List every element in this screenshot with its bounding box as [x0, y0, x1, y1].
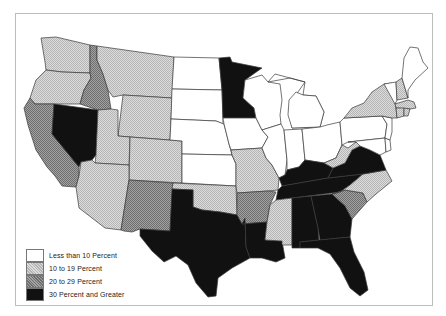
map-legend: Less than 10 Percent 10 to 19 Percent 20… — [26, 249, 124, 301]
legend-item: 30 Percent and Greater — [26, 288, 124, 301]
legend-swatch-black — [26, 288, 44, 301]
legend-label: 30 Percent and Greater — [49, 291, 124, 298]
state-KS — [182, 154, 236, 186]
legend-label: 20 to 29 Percent — [49, 278, 102, 285]
legend-swatch-light-hatch — [26, 262, 44, 275]
state-ME — [402, 47, 428, 98]
legend-item: 20 to 29 Percent — [26, 275, 124, 288]
state-FL — [300, 237, 368, 296]
state-SD — [171, 89, 223, 124]
state-OH — [302, 122, 342, 163]
state-NM — [121, 180, 173, 232]
state-MT — [97, 46, 174, 98]
state-AZ — [76, 160, 129, 230]
legend-label: Less than 10 Percent — [49, 252, 117, 259]
state-MI-lower — [288, 92, 324, 128]
state-CO — [129, 137, 182, 183]
legend-swatch-white — [26, 249, 44, 262]
state-RI — [404, 108, 410, 116]
legend-item: 10 to 19 Percent — [26, 262, 124, 275]
legend-item: Less than 10 Percent — [26, 249, 124, 262]
state-ND — [172, 57, 222, 90]
state-WA — [41, 37, 90, 73]
state-WY — [118, 95, 172, 140]
legend-swatch-dark-hatch — [26, 275, 44, 288]
state-CT — [396, 108, 404, 118]
legend-label: 10 to 19 Percent — [49, 265, 102, 272]
